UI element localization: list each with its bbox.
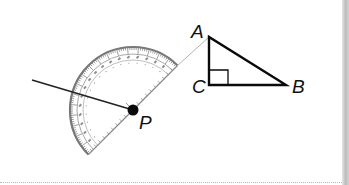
protractor-middle-arc [54,31,173,150]
ray-line [32,80,133,110]
protractor-icon [44,21,178,155]
label-p: P [139,113,152,132]
geometry-figure: A C B P [0,0,349,185]
label-a: A [191,22,204,41]
page-edge-strip [342,0,349,185]
protractor-inner-arc [62,39,168,145]
protractor-outer-arc [44,21,178,155]
point-p [128,105,139,116]
protractor-ticks [44,21,178,155]
bottom-border [0,182,342,183]
label-c: C [192,77,206,96]
triangle-abc [209,37,286,85]
label-b: B [292,77,305,96]
right-angle-marker [209,70,228,85]
